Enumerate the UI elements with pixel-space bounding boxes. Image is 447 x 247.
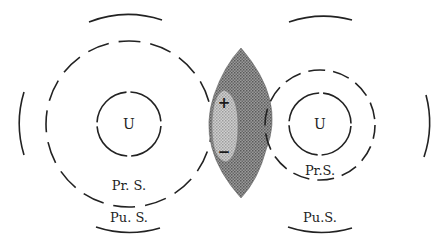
diagram-canvas: U Pr. S. Pu. S. + − U Pr.S. Pu.S.: [0, 0, 447, 247]
right-system: U Pr.S. Pu.S.: [265, 16, 430, 232]
left-public-sphere-label: Pu. S.: [110, 210, 148, 225]
positive-sign: +: [218, 94, 231, 112]
left-core-label: U: [123, 116, 135, 132]
left-outer-arc-left: [19, 92, 24, 155]
diagram-svg: U Pr. S. Pu. S. + − U Pr.S. Pu.S.: [0, 0, 447, 247]
overlap-lens: + −: [209, 48, 272, 198]
right-outer-arc-right: [424, 95, 430, 157]
left-primary-sphere-label: Pr. S.: [112, 178, 146, 193]
left-public-sphere-ring: [19, 15, 162, 233]
right-outer-arc-top: [289, 16, 352, 22]
left-system: U Pr. S. Pu. S.: [19, 15, 212, 233]
right-outer-arc-bottom: [288, 227, 352, 232]
negative-sign: −: [218, 143, 231, 161]
right-public-sphere-label: Pu.S.: [303, 210, 337, 225]
left-outer-arc-top: [89, 15, 162, 22]
left-outer-arc-bottom: [96, 227, 160, 232]
right-primary-sphere-label: Pr.S.: [305, 163, 335, 178]
right-public-sphere-ring: [288, 16, 430, 232]
right-core-label: U: [314, 116, 326, 132]
